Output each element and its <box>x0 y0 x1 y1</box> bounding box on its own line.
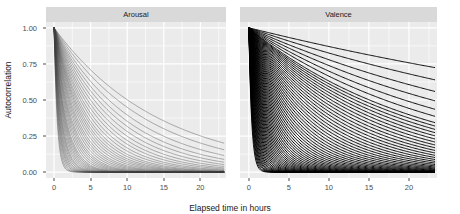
y-tick-label: 1.00 <box>22 23 37 32</box>
valence-panel <box>240 22 437 178</box>
x-tick-label: 10 <box>123 183 131 192</box>
x-tick-mark <box>200 178 201 181</box>
x-tick-label: 5 <box>89 183 93 192</box>
x-tick-mark <box>248 178 249 181</box>
y-tick-mark <box>43 100 46 101</box>
y-tick-label: 0.50 <box>22 96 37 105</box>
x-tick-label: 20 <box>405 183 413 192</box>
y-tick-label: 0.00 <box>22 168 37 177</box>
x-tick-label: 0 <box>52 183 56 192</box>
x-tick-mark <box>408 178 409 181</box>
y-tick-mark <box>43 136 46 137</box>
y-tick-mark <box>43 63 46 64</box>
arousal-panel <box>46 22 226 178</box>
x-tick-mark <box>54 178 55 181</box>
x-tick-mark <box>328 178 329 181</box>
y-tick-label: 0.25 <box>22 132 37 141</box>
x-tick-mark <box>163 178 164 181</box>
x-tick-mark <box>368 178 369 181</box>
x-tick-mark <box>288 178 289 181</box>
y-tick-label: 0.75 <box>22 59 37 68</box>
x-tick-label: 0 <box>247 183 251 192</box>
facet-strip-label-valence: Valence <box>325 10 352 19</box>
x-tick-label: 15 <box>160 183 168 192</box>
chart-figure: Autocorrelation 0.000.250.500.751.00 Aro… <box>0 0 460 214</box>
facet-strip-valence: Valence <box>240 7 437 22</box>
y-axis-ticks: 0.000.250.500.751.00 <box>0 0 44 214</box>
x-tick-mark <box>127 178 128 181</box>
x-axis-title: Elapsed time in hours <box>0 203 460 213</box>
y-tick-mark <box>43 172 46 173</box>
x-tick-label: 15 <box>365 183 373 192</box>
facet-strip-arousal: Arousal <box>46 7 226 22</box>
x-tick-label: 20 <box>196 183 204 192</box>
y-tick-mark <box>43 27 46 28</box>
x-tick-label: 10 <box>325 183 333 192</box>
facet-strip-label-arousal: Arousal <box>123 10 148 19</box>
x-tick-label: 5 <box>287 183 291 192</box>
x-tick-mark <box>90 178 91 181</box>
